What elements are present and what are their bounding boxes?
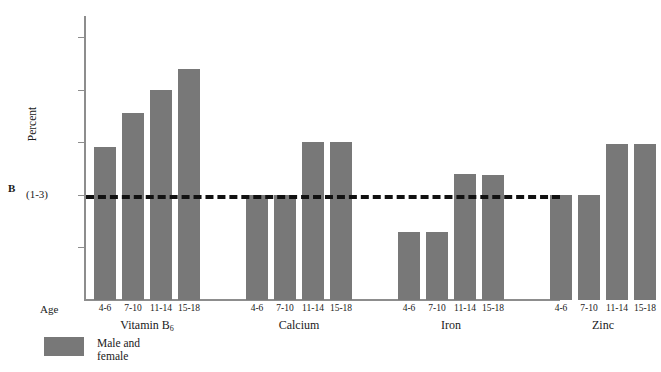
bar-vitamin-b-4-6 xyxy=(94,147,116,300)
legend-swatch-male-and-female xyxy=(44,337,84,356)
group-label-calcium: Calcium xyxy=(239,318,359,333)
bar-zinc-7-10 xyxy=(578,195,600,300)
y-tick-mark-150 xyxy=(78,142,85,143)
legend-label-line1: Male and xyxy=(97,337,140,350)
bar-zinc-11-14 xyxy=(606,144,628,300)
bar-iron-7-10 xyxy=(426,232,448,300)
reference-line-annotation: (1-3) xyxy=(26,188,48,200)
bar-iron-4-6 xyxy=(398,232,420,300)
y-tick-mark-250 xyxy=(78,37,85,38)
legend-label-line2: female xyxy=(97,350,140,363)
bar-iron-11-14 xyxy=(454,174,476,300)
bar-calcium-11-14 xyxy=(302,142,324,300)
bar-vitamin-b-7-10 xyxy=(122,113,144,300)
bar-calcium-15-18 xyxy=(330,142,352,300)
group-label-zinc: Zinc xyxy=(543,318,661,333)
bar-zinc-15-18 xyxy=(634,144,656,300)
group-label-iron: Iron xyxy=(391,318,511,333)
chart-legend: Male and female xyxy=(44,337,140,362)
bar-calcium-4-6 xyxy=(246,195,268,300)
y-axis-title: Percent xyxy=(26,89,38,159)
x-tick-label-iron-15-18: 15-18 xyxy=(476,303,510,313)
bar-vitamin-b-15-18 xyxy=(178,69,200,300)
x-tick-label-vitamin-b-15-18: 15-18 xyxy=(172,303,206,313)
bar-zinc-4-6 xyxy=(550,195,572,300)
x-tick-label-zinc-15-18: 15-18 xyxy=(628,303,661,313)
y-tick-mark-100 xyxy=(78,195,85,196)
plot-area xyxy=(86,16,560,300)
group-label-vitamin-b: Vitamin B6 xyxy=(87,318,207,333)
y-tick-mark-50 xyxy=(78,247,85,248)
age-axis-label: Age xyxy=(40,303,58,315)
x-tick-label-calcium-15-18: 15-18 xyxy=(324,303,358,313)
bar-iron-15-18 xyxy=(482,175,504,300)
panel-letter: B xyxy=(8,182,16,194)
legend-label-male-and-female: Male and female xyxy=(97,337,140,362)
y-tick-mark-200 xyxy=(78,90,85,91)
bar-calcium-7-10 xyxy=(274,195,296,300)
reference-line-100 xyxy=(86,195,560,199)
